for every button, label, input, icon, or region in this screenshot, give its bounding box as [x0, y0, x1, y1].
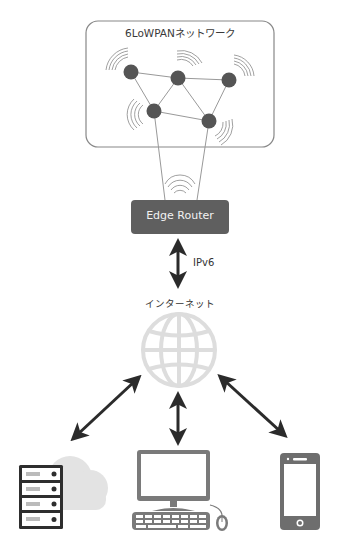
server-icon [19, 465, 63, 529]
arrow-to-phone [224, 380, 281, 432]
sensor-node [222, 73, 237, 88]
sensor-node [171, 71, 186, 86]
sensor-node [147, 104, 162, 119]
sensor-node [124, 65, 139, 80]
desktop-pc-icon [132, 450, 228, 531]
smartphone-icon [280, 453, 320, 530]
device-arrows [77, 380, 281, 437]
arrow-to-server [77, 381, 135, 435]
router-wifi-icon [165, 175, 195, 193]
internet-label: インターネット [120, 296, 240, 310]
network-title: 6LoWPANネットワーク [86, 25, 274, 40]
diagram: 6LoWPANネットワーク Edge Router IPv6 インターネット [0, 0, 340, 553]
sensor-node [202, 114, 217, 129]
router-label: Edge Router [131, 209, 229, 222]
ipv6-label: IPv6 [193, 257, 214, 268]
globe-icon [143, 314, 215, 386]
